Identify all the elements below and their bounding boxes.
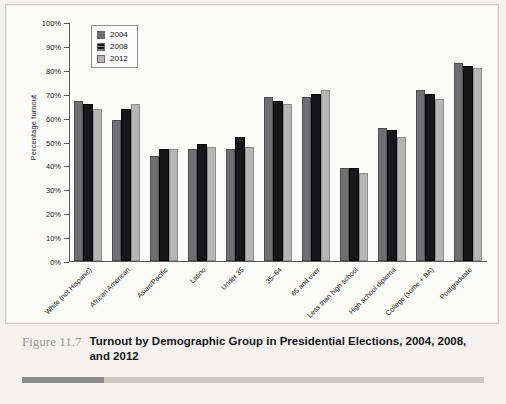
x-axis-tick-label: White (not Hispanic) xyxy=(43,266,93,316)
legend-swatch-2008-icon xyxy=(97,43,105,51)
y-tick-label: 100% xyxy=(42,19,61,28)
bar xyxy=(378,128,388,261)
x-axis-labels: White (not Hispanic)African AmericanAsia… xyxy=(69,264,487,324)
legend-item-2004: 2004 xyxy=(97,30,128,39)
bar xyxy=(387,130,397,261)
y-tick-label: 30% xyxy=(46,186,61,195)
y-tick-label: 20% xyxy=(46,210,61,219)
bar xyxy=(302,97,312,261)
bar-group xyxy=(183,23,221,261)
bar xyxy=(425,94,435,260)
bar xyxy=(159,149,169,261)
y-tick xyxy=(64,262,69,263)
bar xyxy=(74,101,84,260)
chart-panel: Percentage turnout 100%90%80%70%60%50%40… xyxy=(5,4,499,324)
y-tick-label: 60% xyxy=(46,114,61,123)
bar xyxy=(131,104,141,261)
bar xyxy=(112,120,122,260)
bar xyxy=(340,168,350,261)
bar-group xyxy=(411,23,449,261)
caption-rule xyxy=(22,377,484,383)
y-tick-label: 90% xyxy=(46,42,61,51)
y-tick-label: 50% xyxy=(46,138,61,147)
legend-swatch-2004-icon xyxy=(97,31,105,39)
bar xyxy=(93,109,103,261)
bar-group xyxy=(297,23,335,261)
bar-group xyxy=(449,23,487,261)
bar xyxy=(454,63,464,260)
bar xyxy=(207,147,217,261)
bar xyxy=(235,137,245,261)
bar xyxy=(121,109,131,261)
x-label-cell: Postgraduate xyxy=(449,264,487,324)
figure-title: Turnout by Demographic Group in Presiden… xyxy=(89,334,482,363)
x-axis-tick-label: Latino xyxy=(189,266,207,284)
y-tick-label: 80% xyxy=(46,66,61,75)
figure-page: Percentage turnout 100%90%80%70%60%50%40… xyxy=(0,0,506,404)
bar xyxy=(435,99,445,261)
bar xyxy=(150,156,160,261)
bar xyxy=(416,90,426,261)
bar-group xyxy=(145,23,183,261)
legend-item-2012: 2012 xyxy=(97,54,128,63)
bar xyxy=(264,97,274,261)
y-tick-label: 40% xyxy=(46,162,61,171)
bar xyxy=(359,173,369,261)
legend-item-2008: 2008 xyxy=(97,42,128,51)
x-label-cell: Asian/Pacific xyxy=(145,264,183,324)
bar xyxy=(463,66,473,261)
x-label-cell: Latino xyxy=(183,264,221,324)
bar xyxy=(473,68,483,260)
bar-group xyxy=(259,23,297,261)
y-tick-label: 10% xyxy=(46,234,61,243)
x-label-cell: Under 35 xyxy=(221,264,259,324)
bar xyxy=(311,94,321,260)
figure-caption: Figure 11.7 Turnout by Demographic Group… xyxy=(22,334,482,363)
legend: 2004 2008 2012 xyxy=(91,25,138,68)
bar xyxy=(169,149,179,261)
plot-area: Percentage turnout 100%90%80%70%60%50%40… xyxy=(6,5,498,323)
bar xyxy=(226,149,236,261)
x-axis-tick-label: Under 35 xyxy=(220,266,245,291)
bar xyxy=(397,137,407,261)
x-axis-line xyxy=(69,261,487,262)
y-tick-label: 70% xyxy=(46,90,61,99)
bar xyxy=(349,168,359,261)
legend-swatch-2012-icon xyxy=(97,55,105,63)
y-tick-label: 0% xyxy=(50,258,61,267)
bar xyxy=(283,104,293,261)
bar-group xyxy=(221,23,259,261)
legend-label-2004: 2004 xyxy=(110,30,128,39)
bar xyxy=(321,90,331,261)
bar xyxy=(197,144,207,260)
x-axis-tick-label: 35–64 xyxy=(264,266,283,285)
bar xyxy=(188,149,198,261)
y-axis-title: Percentage turnout xyxy=(29,63,38,193)
bar xyxy=(245,147,255,261)
legend-label-2008: 2008 xyxy=(110,42,128,51)
bar xyxy=(83,104,93,261)
bar xyxy=(273,101,283,260)
bar-group xyxy=(373,23,411,261)
figure-number: Figure 11.7 xyxy=(22,334,81,350)
bar-group xyxy=(335,23,373,261)
legend-label-2012: 2012 xyxy=(110,54,128,63)
